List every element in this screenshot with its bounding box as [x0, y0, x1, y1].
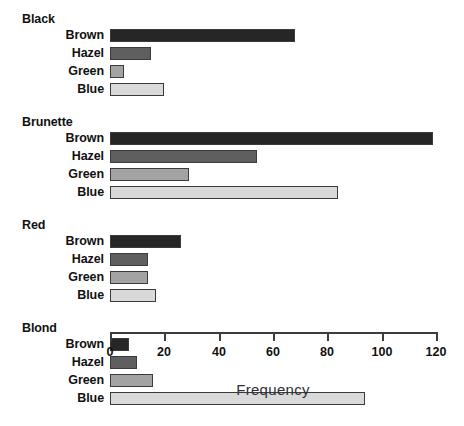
x-axis-tick-60 — [273, 334, 275, 341]
category-label-blond-blue: Blue — [8, 391, 104, 405]
category-label-brunette-brown: Brown — [8, 131, 104, 145]
bar-red-brown — [110, 235, 181, 248]
bar-black-green — [110, 65, 124, 78]
bar-brunette-hazel — [110, 150, 257, 163]
x-axis-tick-label-20: 20 — [144, 345, 184, 359]
category-label-red-blue: Blue — [8, 288, 104, 302]
x-axis-tick-120 — [436, 334, 438, 341]
group-label-black: Black — [22, 12, 55, 26]
bar-brunette-brown — [110, 132, 433, 145]
group-label-red: Red — [22, 218, 45, 232]
category-label-black-brown: Brown — [8, 28, 104, 42]
x-axis-tick-100 — [382, 334, 384, 341]
x-axis-tick-20 — [164, 334, 166, 341]
x-axis-tick-label-120: 120 — [416, 345, 456, 359]
bar-chart: BlackBrownHazelGreenBlueBrunetteBrownHaz… — [0, 0, 464, 426]
category-label-red-green: Green — [8, 270, 104, 284]
group-label-brunette: Brunette — [22, 115, 73, 129]
category-label-black-hazel: Hazel — [8, 46, 104, 60]
x-axis-tick-0 — [110, 334, 112, 341]
bar-black-brown — [110, 29, 295, 42]
bar-brunette-blue — [110, 186, 338, 199]
x-axis-tick-label-80: 80 — [307, 345, 347, 359]
x-axis-tick-80 — [327, 334, 329, 341]
bar-black-hazel — [110, 47, 151, 60]
bar-brunette-green — [110, 168, 189, 181]
category-label-brunette-blue: Blue — [8, 185, 104, 199]
bar-black-blue — [110, 83, 164, 96]
x-axis-tick-label-100: 100 — [362, 345, 402, 359]
x-axis-tick-label-60: 60 — [253, 345, 293, 359]
category-label-black-blue: Blue — [8, 82, 104, 96]
x-axis-title: Frequency — [110, 381, 436, 398]
x-axis-tick-label-40: 40 — [199, 345, 239, 359]
x-axis-tick-label-0: 0 — [90, 345, 130, 359]
bar-red-blue — [110, 289, 156, 302]
group-label-blond: Blond — [22, 321, 57, 335]
bar-red-hazel — [110, 253, 148, 266]
category-label-brunette-hazel: Hazel — [8, 149, 104, 163]
category-label-black-green: Green — [8, 64, 104, 78]
category-label-blond-green: Green — [8, 373, 104, 387]
category-label-red-brown: Brown — [8, 234, 104, 248]
x-axis-tick-40 — [219, 334, 221, 341]
category-label-brunette-green: Green — [8, 167, 104, 181]
bar-red-green — [110, 271, 148, 284]
category-label-red-hazel: Hazel — [8, 252, 104, 266]
